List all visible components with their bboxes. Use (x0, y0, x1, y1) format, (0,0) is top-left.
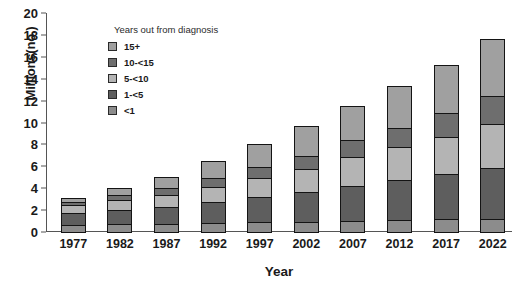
bar-segment (294, 222, 319, 233)
bar-stack[interactable] (247, 144, 272, 232)
legend-item[interactable]: <1 (108, 102, 218, 118)
bar-stack[interactable] (107, 188, 132, 232)
y-tick-label: 18 (0, 27, 46, 42)
legend-item-label: 10-<15 (124, 57, 154, 68)
legend-swatch-icon (108, 106, 117, 115)
y-tick-label: 20 (0, 6, 46, 21)
bar-segment (340, 221, 365, 233)
legend: Years out from diagnosis 15+10-<155-<101… (108, 24, 218, 118)
bar-segment (434, 113, 459, 138)
legend-title: Years out from diagnosis (114, 24, 218, 35)
bar-stack[interactable] (480, 39, 505, 232)
x-tick-label: 2007 (339, 237, 367, 251)
bar-segment (480, 219, 505, 233)
bar-segment (480, 124, 505, 169)
chart-figure: Millions(no.) 02468101214161820 19771982… (0, 0, 528, 292)
bar-stack[interactable] (294, 126, 319, 232)
x-tick-label: 1982 (106, 237, 134, 251)
legend-swatch-icon (108, 74, 117, 83)
y-tick-label: 16 (0, 49, 46, 64)
legend-swatch-icon (108, 90, 117, 99)
bar-segment (480, 39, 505, 97)
y-tick-label: 12 (0, 93, 46, 108)
x-tick-label: 1992 (199, 237, 227, 251)
bar-segment (387, 86, 412, 129)
bar-segment (201, 202, 226, 224)
bar-segment (340, 140, 365, 158)
bar-segment (294, 126, 319, 156)
x-tick-label: 1997 (246, 237, 274, 251)
legend-swatch-icon (108, 58, 117, 67)
bar-stack[interactable] (434, 65, 459, 232)
x-axis-title: Year (46, 264, 512, 279)
y-tick-label: 2 (0, 203, 46, 218)
bar-segment (387, 220, 412, 233)
legend-item-label: 5-<10 (124, 73, 149, 84)
bar-segment (340, 157, 365, 187)
bar-segment (154, 224, 179, 233)
bar-segment (201, 187, 226, 203)
legend-item[interactable]: 15+ (108, 38, 218, 54)
bar-segment (107, 210, 132, 225)
bar-segment (387, 147, 412, 181)
bar-segment (247, 222, 272, 233)
y-tick-label: 14 (0, 71, 46, 86)
legend-swatch-icon (108, 42, 117, 51)
bar-segment (434, 65, 459, 114)
bar-segment (201, 223, 226, 233)
y-tick-label: 8 (0, 137, 46, 152)
bar-segment (480, 168, 505, 219)
bar-segment (294, 192, 319, 222)
bar-segment (387, 128, 412, 149)
bar-segment (61, 225, 86, 233)
legend-rows: 15+10-<155-<101-<5<1 (108, 38, 218, 118)
y-tick-label: 6 (0, 159, 46, 174)
x-tick-label: 2017 (432, 237, 460, 251)
bar-stack[interactable] (201, 161, 226, 232)
bar-segment (154, 207, 179, 225)
bar-stack[interactable] (61, 198, 86, 232)
bar-segment (480, 96, 505, 126)
bar-segment (340, 106, 365, 142)
bar-stack[interactable] (387, 86, 412, 232)
bar-segment (107, 224, 132, 233)
bar-segment (201, 161, 226, 179)
plot-area: 02468101214161820 1977198219871992199720… (46, 13, 512, 232)
x-tick-label: 2022 (479, 237, 507, 251)
bar-segment (434, 174, 459, 220)
legend-item-label: <1 (124, 105, 135, 116)
y-tick-label: 4 (0, 181, 46, 196)
x-tick-label: 1987 (153, 237, 181, 251)
y-tick-label: 0 (0, 225, 46, 240)
bar-segment (294, 156, 319, 171)
legend-item-label: 15+ (124, 41, 140, 52)
bar-segment (247, 144, 272, 168)
bar-stack[interactable] (340, 106, 365, 232)
x-tick-label: 2002 (292, 237, 320, 251)
legend-item-label: 1-<5 (124, 89, 143, 100)
y-tick-label: 10 (0, 115, 46, 130)
bar-segment (247, 178, 272, 198)
x-tick-label: 2012 (386, 237, 414, 251)
legend-item[interactable]: 10-<15 (108, 54, 218, 70)
bar-segment (434, 137, 459, 175)
bar-segment (387, 180, 412, 221)
bar-segment (434, 219, 459, 233)
bar-segment (294, 169, 319, 193)
bar-segment (340, 186, 365, 222)
bar-stack[interactable] (154, 177, 179, 232)
legend-item[interactable]: 1-<5 (108, 86, 218, 102)
x-tick-label: 1977 (59, 237, 87, 251)
legend-item[interactable]: 5-<10 (108, 70, 218, 86)
bar-segment (247, 197, 272, 223)
